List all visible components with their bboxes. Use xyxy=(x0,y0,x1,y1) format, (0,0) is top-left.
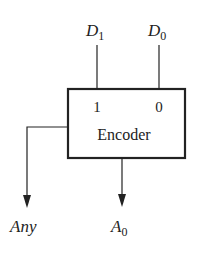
arrowhead-any-icon xyxy=(23,195,31,208)
encoder-block xyxy=(68,89,185,158)
arrowhead-a0-icon xyxy=(118,194,126,207)
pin-label-0: 0 xyxy=(155,99,163,115)
input-label-d1: D1 xyxy=(85,21,104,43)
input-label-d0: D0 xyxy=(147,21,166,43)
output-line-any xyxy=(27,127,68,198)
pin-label-1: 1 xyxy=(93,99,101,115)
output-label-any: Any xyxy=(9,217,37,236)
output-label-a0: A0 xyxy=(110,217,127,239)
encoder-diagram: D1 D0 1 0 Encoder Any A0 xyxy=(0,0,198,254)
block-label: Encoder xyxy=(97,126,151,143)
